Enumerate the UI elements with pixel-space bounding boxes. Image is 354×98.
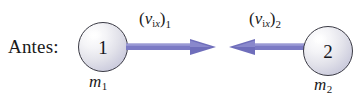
- mass-1-symbol: m: [89, 72, 101, 91]
- arrow-left-glyph: [229, 39, 308, 55]
- velocity-1-arrow-right: [126, 38, 216, 56]
- velocity-2-label: (vix)2: [249, 9, 281, 34]
- arrow-right-glyph: [126, 39, 216, 55]
- mass-1-label: m1: [89, 72, 107, 96]
- diagram-caption: Antes:: [8, 36, 59, 58]
- velocity-1-label: (vix)1: [139, 9, 171, 34]
- mass-2-label: m2: [314, 75, 332, 98]
- velocity-2-arrow-left: [229, 38, 308, 56]
- velocity-1-index: 1: [165, 18, 171, 30]
- mass-1-subscript: 1: [102, 80, 108, 92]
- mass-2-subscript: 2: [327, 83, 333, 95]
- mass-1-ball-number: 1: [98, 38, 108, 57]
- mass-2-symbol: m: [314, 75, 326, 94]
- mass-1-ball: 1: [78, 22, 128, 72]
- mass-2-ball: 2: [303, 26, 353, 76]
- collision-before-diagram: Antes: 1 m1 (vix)1: [0, 0, 354, 98]
- velocity-2-index: 2: [275, 18, 281, 30]
- mass-2-ball-number: 2: [323, 42, 333, 61]
